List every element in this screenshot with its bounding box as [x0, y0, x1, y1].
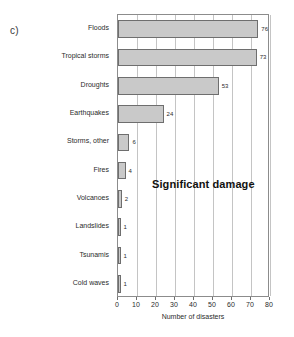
- bar-value-label: 53: [222, 83, 229, 89]
- bar: [118, 134, 129, 152]
- x-tick-mark: [174, 297, 175, 300]
- bar-row: 4: [118, 162, 268, 180]
- x-tick-mark: [212, 297, 213, 300]
- x-tick-label: 30: [170, 301, 178, 308]
- bar-row: 1: [118, 275, 268, 293]
- bar-row: 6: [118, 134, 268, 152]
- x-tick-mark: [193, 297, 194, 300]
- bar-row: 2: [118, 190, 268, 208]
- bar: [118, 275, 121, 293]
- bar-value-label: 73: [260, 54, 267, 60]
- x-tick-label: 80: [265, 301, 273, 308]
- bar-chart-figure: c) 76735324642111 FloodsTropical stormsD…: [0, 0, 294, 337]
- category-label: Floods: [88, 24, 109, 31]
- bar-value-label: 1: [124, 253, 127, 259]
- bar: [118, 105, 164, 123]
- bar-row: 1: [118, 247, 268, 265]
- bar-value-label: 1: [124, 281, 127, 287]
- bar-value-label: 1: [124, 224, 127, 230]
- chart-annotation: Significant damage: [152, 178, 255, 190]
- x-axis-title: Number of disasters: [117, 313, 269, 320]
- bar-row: 24: [118, 105, 268, 123]
- x-tick-label: 60: [227, 301, 235, 308]
- bar-value-label: 76: [261, 26, 268, 32]
- x-tick-label: 70: [246, 301, 254, 308]
- bar-row: 73: [118, 49, 268, 67]
- category-label: Droughts: [81, 81, 109, 88]
- category-label: Cold waves: [73, 279, 109, 286]
- bar-value-label: 2: [125, 196, 128, 202]
- bar: [118, 218, 121, 236]
- bar-value-label: 4: [129, 168, 132, 174]
- x-tick-label: 20: [151, 301, 159, 308]
- category-label: Earthquakes: [70, 109, 109, 116]
- category-label: Tropical storms: [61, 52, 109, 59]
- category-label: Landslides: [76, 222, 109, 229]
- category-axis-labels: FloodsTropical stormsDroughtsEarthquakes…: [0, 14, 113, 297]
- category-label: Tsunamis: [79, 251, 109, 258]
- bar: [118, 190, 122, 208]
- category-label: Volcanoes: [77, 194, 109, 201]
- x-tick-mark: [231, 297, 232, 300]
- category-label: Storms, other: [67, 137, 109, 144]
- x-tick-mark: [117, 297, 118, 300]
- bar: [118, 20, 258, 38]
- x-tick-label: 0: [115, 301, 119, 308]
- plot-area: 76735324642111: [117, 14, 269, 297]
- x-tick-mark: [155, 297, 156, 300]
- x-tick-mark: [269, 297, 270, 300]
- category-label: Fires: [93, 166, 109, 173]
- bar-row: 53: [118, 77, 268, 95]
- x-tick-label: 10: [132, 301, 140, 308]
- x-tick-mark: [136, 297, 137, 300]
- bar: [118, 49, 257, 67]
- x-tick-label: 40: [189, 301, 197, 308]
- gridline: [270, 15, 271, 296]
- bar-value-label: 6: [132, 139, 135, 145]
- bar: [118, 162, 126, 180]
- x-tick-mark: [250, 297, 251, 300]
- x-axis-ticks: 01020304050607080: [117, 297, 269, 311]
- bar: [118, 247, 121, 265]
- bar-value-label: 24: [167, 111, 174, 117]
- bar: [118, 77, 219, 95]
- x-tick-label: 50: [208, 301, 216, 308]
- bars-layer: 76735324642111: [118, 15, 268, 296]
- bar-row: 1: [118, 218, 268, 236]
- bar-row: 76: [118, 20, 268, 38]
